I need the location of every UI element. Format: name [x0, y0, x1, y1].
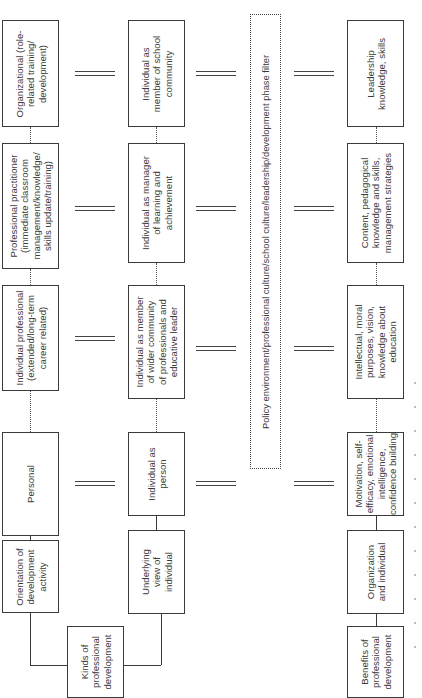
view-header-label: Underlying view of individual [139, 530, 173, 614]
orientation-professional-practitioner-label: Professional practitioner (immediate cla… [8, 143, 54, 269]
orientation-personal-label: Personal [25, 432, 36, 536]
connector-benefits-root [376, 614, 377, 626]
orientation-organizational-box: Organizational (role- related training/ … [2, 20, 59, 127]
figure-caption-fragment [410, 360, 420, 694]
equals-sign-a-b-2 [75, 206, 115, 211]
equals-sign-filter-c-4 [294, 481, 334, 486]
policy-filter-box: Policy environment/professional culture/… [250, 14, 281, 469]
view-school-community-box: Individual as member of school community [128, 20, 185, 127]
view-school-community-label: Individual as member of school community [139, 20, 173, 127]
dotted-connector-a1 [30, 391, 31, 432]
orientation-individual-professional-label: Individual professional (extended/long-t… [13, 285, 47, 391]
dotted-connector-c1 [376, 399, 377, 432]
view-manager-label: Individual as manager of learning and ac… [139, 143, 173, 263]
benefits-content-label: Content, pedagogical knowledge and skill… [358, 143, 392, 263]
bracket-orientation-to-kinds [30, 665, 67, 666]
connector-benefits-motivation [376, 516, 377, 530]
view-header-box: Underlying view of individual [128, 530, 185, 614]
dotted-connector-c3 [376, 127, 377, 143]
connector-view-person [156, 516, 157, 530]
view-wider-community-box: Individual as member of wider community … [128, 285, 185, 399]
dotted-connector-b2 [156, 263, 157, 285]
orientation-header-box: Orientation of development activity [2, 540, 59, 613]
benefits-leadership-box: Leadership knowledge, skills [347, 20, 404, 127]
orientation-professional-practitioner-box: Professional practitioner (immediate cla… [2, 143, 59, 269]
policy-filter-label: Policy environment/professional culture/… [260, 22, 271, 462]
dotted-connector-c2 [376, 263, 377, 285]
view-person-label: Individual as person [145, 432, 168, 516]
view-person-box: Individual as person [128, 432, 185, 516]
benefits-intellectual-label: Intellectual, moral purposes, vision, kn… [353, 285, 399, 399]
equals-sign-b-filter-4 [196, 481, 236, 486]
equals-sign-b-filter-2 [196, 206, 236, 211]
dotted-connector-a3 [30, 127, 31, 143]
orientation-header-label: Orientation of development activity [13, 540, 47, 613]
connector-orientation-personal [30, 536, 31, 540]
view-manager-box: Individual as manager of learning and ac… [128, 143, 185, 263]
benefits-leadership-label: Leadership knowledge, skills [364, 20, 387, 127]
equals-sign-filter-c-2 [294, 206, 334, 211]
benefits-header-box: Organization and individual [347, 530, 404, 614]
equals-sign-a-b-4 [75, 481, 115, 486]
bracket-view-down [161, 614, 162, 665]
view-wider-community-label: Individual as member of wider community … [134, 285, 180, 399]
orientation-individual-professional-box: Individual professional (extended/long-t… [2, 285, 59, 391]
benefits-content-box: Content, pedagogical knowledge and skill… [347, 143, 404, 263]
equals-sign-a-b-1 [75, 71, 115, 76]
equals-sign-filter-c-3 [294, 346, 334, 351]
equals-sign-b-filter-1 [196, 71, 236, 76]
kinds-root-box: Kinds of professional development [67, 626, 124, 698]
orientation-personal-box: Personal [2, 432, 59, 536]
kinds-root-label: Kinds of professional development [78, 626, 112, 698]
benefits-intellectual-box: Intellectual, moral purposes, vision, kn… [347, 285, 404, 399]
bracket-orientation-down [30, 613, 31, 665]
benefits-root-label: Benefits of professional development [358, 626, 392, 698]
orientation-organizational-label: Organizational (role- related training/ … [13, 20, 47, 127]
benefits-root-box: Benefits of professional development [347, 626, 404, 698]
benefits-header-label: Organization and individual [364, 530, 387, 614]
dotted-connector-a2 [30, 269, 31, 285]
equals-sign-b-filter-3 [196, 346, 236, 351]
benefits-motivation-label: Motivation, self- efficacy, emotional in… [353, 432, 399, 516]
equals-sign-filter-c-1 [294, 71, 334, 76]
benefits-motivation-box: Motivation, self- efficacy, emotional in… [347, 432, 404, 516]
equals-sign-a-b-3 [75, 336, 115, 341]
dotted-connector-b3 [156, 127, 157, 143]
dotted-connector-b1 [156, 399, 157, 432]
bracket-view-to-kinds [124, 665, 161, 666]
